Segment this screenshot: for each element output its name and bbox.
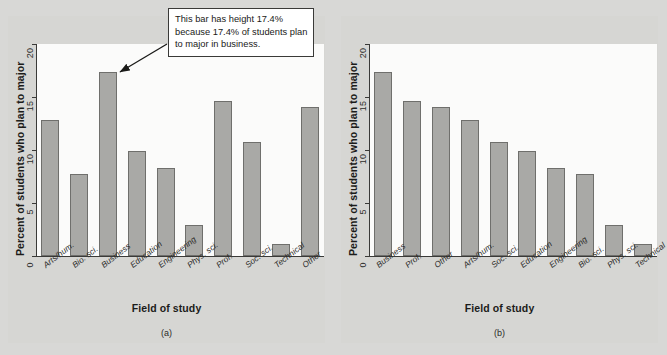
bar [99, 72, 117, 256]
y-axis-tick-label: 0 [25, 255, 35, 275]
y-axis-tick-label: 20 [25, 43, 35, 63]
bar [518, 151, 536, 256]
panel-b-x-axis-label: Field of study [333, 302, 666, 314]
y-axis-tick-label: 5 [358, 202, 368, 222]
bar [374, 72, 392, 256]
callout-box: This bar has height 17.4% because 17.4% … [168, 8, 314, 57]
y-axis-line [369, 44, 370, 256]
chart-panel-b: 05101520 BusinessProf.OtherArts/hum.Soc.… [333, 0, 666, 355]
bar [128, 151, 146, 256]
panel-a-y-axis-label: Percent of students who plan to major [14, 62, 26, 256]
y-axis-tick-label: 20 [358, 43, 368, 63]
y-axis-line [36, 44, 37, 256]
panel-a-sublabel: (a) [0, 328, 333, 338]
y-axis-tick-label: 10 [25, 149, 35, 169]
bar [490, 142, 508, 256]
panel-b-bars [369, 44, 657, 256]
y-axis-tick-label: 15 [358, 96, 368, 116]
bar [214, 101, 232, 256]
panel-a-x-axis-label: Field of study [0, 302, 333, 314]
bar [461, 120, 479, 256]
panel-a-bars [36, 44, 324, 256]
chart-panel-a: 05101520 Arts/hum.Bio. sci.BusinessEduca… [0, 0, 333, 355]
panel-b-sublabel: (b) [333, 328, 666, 338]
y-axis-tick-label: 0 [358, 255, 368, 275]
bar [243, 142, 261, 256]
y-axis-tick-label: 15 [25, 96, 35, 116]
bar [432, 107, 450, 256]
bar [403, 101, 421, 256]
bar [41, 120, 59, 256]
bar [301, 107, 319, 256]
bar-chart-figure: 05101520 Arts/hum.Bio. sci.BusinessEduca… [0, 0, 667, 355]
y-axis-tick-label: 5 [25, 202, 35, 222]
y-axis-tick-label: 10 [358, 149, 368, 169]
panel-b-y-axis-label: Percent of students who plan to major [347, 62, 359, 256]
